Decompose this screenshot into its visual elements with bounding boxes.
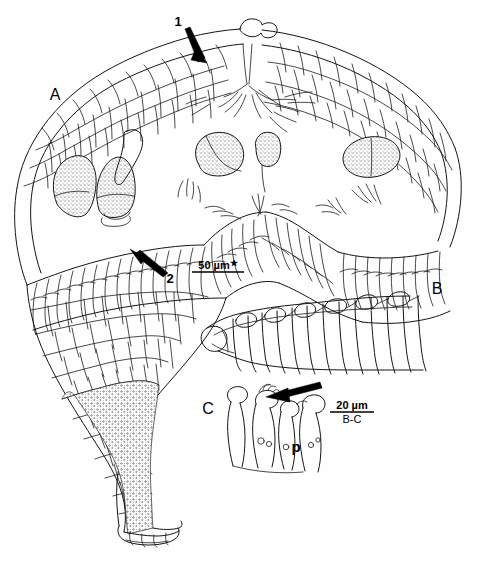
paraphysis-label: p [291, 438, 300, 455]
panel-label-c: C [202, 400, 214, 417]
panel-label-a: A [50, 86, 61, 103]
spore-left-pair [53, 156, 135, 227]
callout-label-1: 1 [174, 14, 181, 29]
scale-bar-a-label: 50 µm★ [198, 258, 238, 271]
cavity-roof-hairs [186, 44, 315, 132]
hyphal-tufts [178, 179, 381, 219]
panel-a-drawing [15, 19, 462, 547]
canopy-cells-right [264, 43, 452, 213]
scientific-figure: A B C 1 2 p 50 µm★ 20 µm B-C [0, 0, 480, 567]
callout-label-2: 2 [166, 271, 173, 286]
scale-bar-bc-label: 20 µm [336, 399, 368, 411]
panel-b-basal-cells [212, 330, 234, 353]
palisade-cells-right [340, 252, 445, 310]
spore-right [343, 137, 400, 178]
spore-center-small [255, 132, 280, 192]
arrow-2-shaft [135, 250, 168, 277]
scale-bar-bc-sublabel: B-C [343, 413, 362, 425]
figure-canvas: A B C 1 2 p 50 µm★ 20 µm B-C [0, 0, 480, 567]
scale-bar-a-value: 50 µm [198, 259, 230, 271]
scale-bar-a-marker: ★ [230, 258, 239, 268]
spore-center [196, 132, 244, 176]
panel-label-b: B [432, 280, 443, 297]
panel-b-drawing [201, 292, 426, 374]
panel-b-ridge-cells [256, 296, 419, 322]
palisade-cells-center [206, 215, 334, 296]
